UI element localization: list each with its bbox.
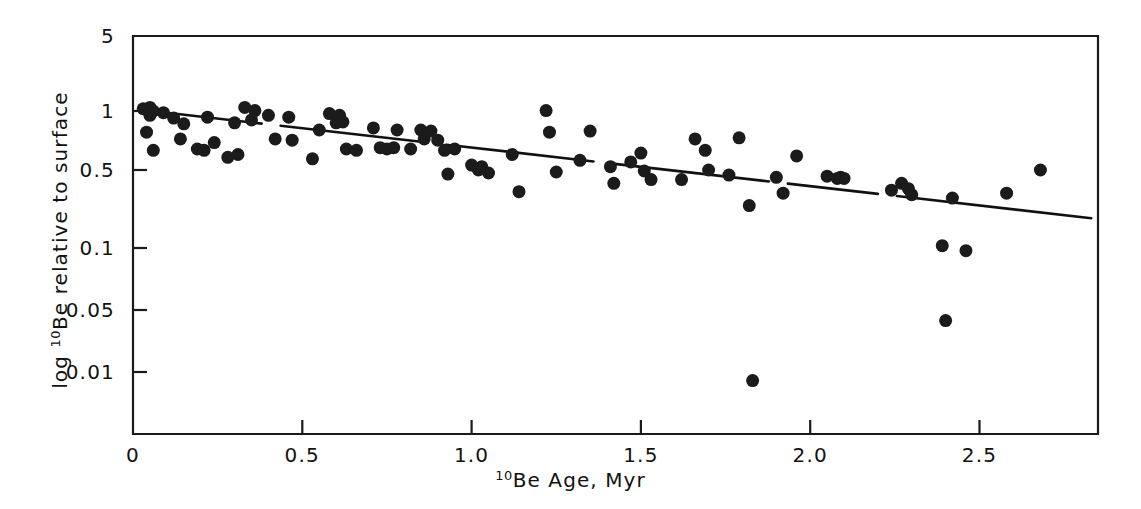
data-point xyxy=(743,199,756,212)
data-point xyxy=(448,142,461,155)
y-tick-label: 5 xyxy=(101,24,115,48)
data-point xyxy=(306,152,319,165)
data-point xyxy=(790,149,803,162)
y-tick-label: 1 xyxy=(101,99,115,123)
y-axis-title-superscript: 10 xyxy=(48,330,63,348)
data-point xyxy=(939,314,952,327)
data-point xyxy=(604,160,617,173)
data-point xyxy=(543,126,556,139)
scatter-plot: 510.50.10.050.01 00.51.01.52.02.5 xyxy=(0,0,1141,509)
x-tick-label: 2.0 xyxy=(792,443,827,467)
data-point xyxy=(350,144,363,157)
y-axis-title: log 10Be relative to surface xyxy=(48,60,72,420)
data-point xyxy=(140,126,153,139)
data-point xyxy=(770,171,783,184)
data-point xyxy=(540,104,553,117)
x-axis-title: 10Be Age, Myr xyxy=(0,468,1141,492)
x-tick-label: 0 xyxy=(126,443,140,467)
y-tick-label: 0.1 xyxy=(80,236,115,260)
data-point xyxy=(746,374,759,387)
data-point xyxy=(675,173,688,186)
data-point xyxy=(513,185,526,198)
data-point xyxy=(248,104,261,117)
data-point xyxy=(177,117,190,130)
x-tick-label: 2.5 xyxy=(962,443,997,467)
data-point xyxy=(336,115,349,128)
data-point xyxy=(269,132,282,145)
data-point xyxy=(228,116,241,129)
data-point xyxy=(838,172,851,185)
data-point xyxy=(208,136,221,149)
y-axis-title-text: Be relative to surface xyxy=(48,91,72,330)
data-point xyxy=(231,148,244,161)
data-point xyxy=(722,169,735,182)
data-point xyxy=(689,132,702,145)
data-point xyxy=(367,121,380,134)
data-point xyxy=(959,244,972,257)
data-point xyxy=(634,147,647,160)
data-point xyxy=(699,144,712,157)
data-point xyxy=(905,188,918,201)
x-tick-label: 1.5 xyxy=(623,443,658,467)
data-point xyxy=(441,168,454,181)
data-point xyxy=(1034,164,1047,177)
data-point xyxy=(624,155,637,168)
data-point xyxy=(282,111,295,124)
data-point xyxy=(645,173,658,186)
data-point xyxy=(573,154,586,167)
data-point xyxy=(506,148,519,161)
x-tick-label: 0.5 xyxy=(285,443,320,467)
data-point xyxy=(482,167,495,180)
y-tick-label: 0.01 xyxy=(66,360,115,384)
data-point xyxy=(550,165,563,178)
data-point xyxy=(286,134,299,147)
data-point xyxy=(733,131,746,144)
data-point xyxy=(777,187,790,200)
figure-container: 510.50.10.050.01 00.51.01.52.02.5 10Be A… xyxy=(0,0,1141,509)
y-tick-label: 0.5 xyxy=(80,158,115,182)
y-axis-title-prefix: log xyxy=(48,348,72,389)
data-point xyxy=(201,111,214,124)
data-point xyxy=(391,123,404,136)
data-point xyxy=(936,239,949,252)
data-point xyxy=(946,192,959,205)
y-tick-label: 0.05 xyxy=(66,298,115,322)
data-point xyxy=(607,177,620,190)
x-tick-label: 1.0 xyxy=(454,443,489,467)
data-point xyxy=(262,109,275,122)
data-point xyxy=(387,141,400,154)
data-point xyxy=(404,142,417,155)
x-axis-title-superscript: 10 xyxy=(495,468,513,483)
data-point xyxy=(147,144,160,157)
x-axis-title-text: Be Age, Myr xyxy=(513,468,646,492)
data-point xyxy=(584,125,597,138)
data-point xyxy=(313,123,326,136)
data-point xyxy=(1000,187,1013,200)
data-point xyxy=(143,109,156,122)
data-point xyxy=(174,132,187,145)
data-point xyxy=(702,164,715,177)
